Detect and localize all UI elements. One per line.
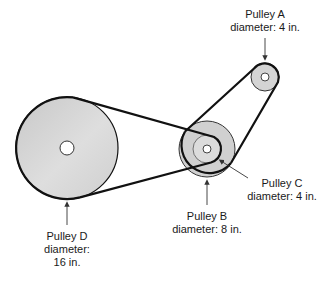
label-pulley-b: Pulley B diameter: 8 in. [167,210,247,236]
pulley-a-name: Pulley A [230,8,300,21]
pulley-a-hub [261,73,269,81]
pulley-c-name: Pulley C [244,177,320,190]
pulley-diagram: Pulley A diameter: 4 in. Pulley C diamet… [0,0,320,284]
pulley-c-hub [203,145,211,153]
label-pulley-c: Pulley C diameter: 4 in. [244,177,320,203]
pulley-d-name: Pulley D [37,230,97,243]
pulley-a-diameter: diameter: 4 in. [230,21,300,34]
pulley-d-hub [60,141,74,155]
pulley-d-diameter-line1: diameter: [37,243,97,256]
pulley-b-name: Pulley B [167,210,247,223]
label-pulley-d: Pulley D diameter: 16 in. [37,230,97,269]
pulley-b-diameter: diameter: 8 in. [167,223,247,236]
pulley-c-diameter: diameter: 4 in. [244,190,320,203]
pulley-d-diameter-line2: 16 in. [37,256,97,269]
label-pulley-a: Pulley A diameter: 4 in. [230,8,300,34]
